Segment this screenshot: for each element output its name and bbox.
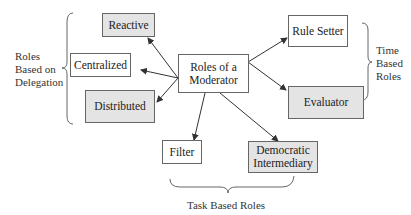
node-evaluator: Evaluator — [288, 86, 364, 119]
task-brace — [170, 176, 294, 193]
delegation-group-label: Roles Based on Delegation — [15, 50, 63, 89]
filter-label: Filter — [170, 146, 195, 159]
node-reactive: Reactive — [102, 13, 155, 37]
evaluator-label: Evaluator — [304, 96, 349, 109]
time-label-line2: Based — [376, 57, 403, 70]
democratic-intermediary-line2: Intermediary — [253, 157, 312, 170]
node-democratic-intermediary: Democratic Intermediary — [248, 141, 318, 173]
task-label: Task Based Roles — [187, 199, 265, 211]
rule-setter-label: Rule Setter — [292, 25, 343, 38]
arrow-to-filter — [194, 93, 205, 140]
arrow-to-distributed — [157, 78, 178, 102]
distributed-label: Distributed — [94, 100, 146, 113]
node-filter: Filter — [162, 140, 202, 164]
node-distributed: Distributed — [85, 90, 155, 123]
democratic-intermediary-line1: Democratic — [256, 144, 310, 157]
delegation-label-line1: Roles — [15, 50, 63, 63]
arrow-to-rule-setter — [248, 38, 287, 62]
centralized-label: Centralized — [74, 59, 127, 72]
time-label-line3: Roles — [376, 70, 403, 83]
reactive-label: Reactive — [108, 19, 148, 32]
time-group-label: Time Based Roles — [376, 44, 403, 83]
task-group-label: Task Based Roles — [187, 199, 265, 212]
arrow-to-democratic-intermediary — [220, 93, 278, 141]
arrow-to-evaluator — [248, 62, 286, 90]
delegation-label-line3: Delegation — [15, 76, 63, 89]
node-centralized: Centralized — [70, 53, 131, 77]
time-label-line1: Time — [376, 44, 403, 57]
delegation-label-line2: Based on — [15, 63, 63, 76]
node-rule-setter: Rule Setter — [288, 15, 348, 47]
center-node-roles-of-moderator: Roles of a Moderator — [178, 54, 249, 93]
center-label-line1: Roles of a — [190, 61, 237, 74]
center-label-line2: Moderator — [189, 74, 238, 87]
